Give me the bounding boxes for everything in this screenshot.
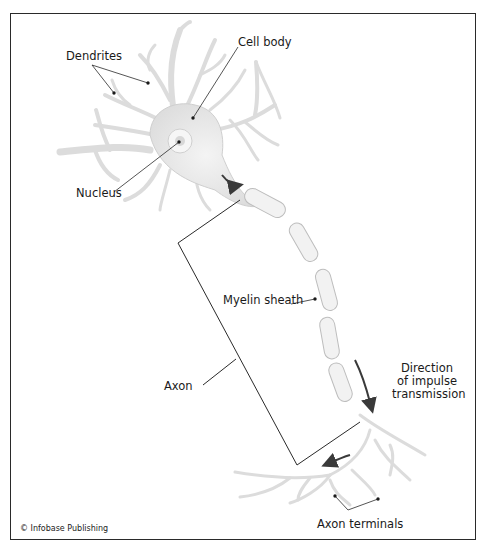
label-nucleus: Nucleus	[76, 187, 122, 200]
leader-dots	[112, 81, 379, 500]
axon-terminals	[235, 415, 425, 505]
leader-lines	[92, 47, 378, 510]
label-direction-of-impulse: Direction of impulse transmission	[392, 362, 462, 401]
label-myelin-sheath: Myelin sheath	[223, 294, 303, 307]
label-axon-terminals: Axon terminals	[317, 518, 403, 531]
label-axon: Axon	[164, 380, 193, 393]
impulse-arrow-axon	[355, 360, 372, 410]
label-cell-body: Cell body	[238, 36, 292, 49]
label-dendrites: Dendrites	[66, 50, 122, 63]
copyright-notice: © Infobase Publishing	[20, 524, 108, 533]
neuron-illustration	[0, 0, 486, 550]
